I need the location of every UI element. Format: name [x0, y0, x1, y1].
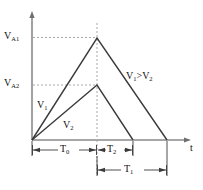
dimension-label-t2-subscript: 2: [113, 148, 116, 155]
dimension-label-t0: T0: [60, 144, 69, 154]
y-tick-label-va1-subscript: A1: [11, 35, 19, 42]
dim-t1-arrow-left: [98, 168, 105, 172]
y-tick-label-va2-subscript: A2: [11, 82, 19, 89]
dimension-label-t1-subscript: 1: [130, 168, 133, 175]
curve-label-v1: V1: [37, 100, 47, 110]
dimension-row-1: [33, 145, 133, 155]
y-axis-arrowhead: [29, 11, 34, 18]
y-tick-label-va1: VA1: [4, 31, 19, 41]
y-tick-label-va2: VA2: [4, 78, 19, 88]
waveform-group: [32, 38, 167, 140]
dimension-label-t2: T2: [107, 144, 116, 154]
dimension-extension-ticks: [32, 141, 167, 176]
annotation-v1-greater-v2: V1>V2: [126, 71, 153, 81]
annotation-lhs-subscript: 1: [133, 75, 136, 82]
curve-label-v1-subscript: 1: [44, 104, 47, 111]
curve-label-v2: V2: [63, 120, 73, 130]
waveform-v2: [32, 85, 133, 140]
annotation-rhs-subscript: 2: [149, 75, 152, 82]
axis-group: [29, 11, 191, 143]
dim-t0-arrow-right: [89, 148, 96, 152]
dim-t1-arrow-right: [159, 168, 166, 172]
waveform-diagram: VA1 VA2 V1 V2 V1>V2 T0 T2 T1 t: [0, 0, 203, 190]
dimension-label-t0-subscript: 0: [66, 148, 69, 155]
dim-t0-arrow-left: [33, 148, 40, 152]
dim-t2-arrow-right: [125, 148, 132, 152]
x-axis-label-t: t: [190, 143, 193, 153]
plot-canvas: [0, 0, 203, 190]
dim-t2-arrow-left: [98, 148, 105, 152]
curve-label-v2-subscript: 2: [70, 124, 73, 131]
dimension-label-t1: T1: [124, 164, 133, 174]
